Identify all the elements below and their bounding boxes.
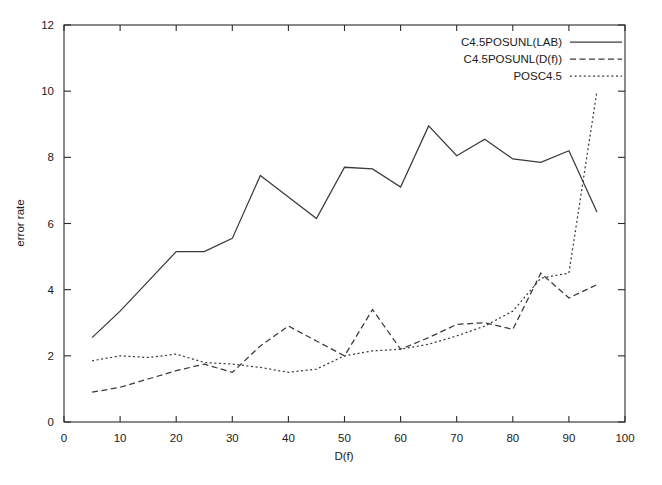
x-tick-label-20: 20	[170, 432, 183, 444]
x-tick-label-60: 60	[394, 432, 407, 444]
data-series-group	[92, 91, 597, 392]
y-tick-label-10: 10	[41, 85, 54, 97]
x-axis-tick-labels: 0102030405060708090100	[61, 432, 635, 444]
legend-label-1: C4.5POSUNL(D(f))	[464, 53, 563, 65]
legend-label-0: C4.5POSUNL(LAB)	[461, 36, 562, 48]
y-tick-label-4: 4	[48, 284, 55, 296]
series-line-2	[92, 91, 597, 372]
series-line-0	[92, 126, 597, 338]
y-axis-tick-labels: 024681012	[41, 19, 54, 428]
x-tick-label-100: 100	[615, 432, 634, 444]
x-tick-label-90: 90	[563, 432, 576, 444]
plot-frame	[64, 25, 625, 422]
chart-legend: C4.5POSUNL(LAB)C4.5POSUNL(D(f))POSC4.5	[461, 36, 622, 82]
x-tick-label-80: 80	[506, 432, 519, 444]
y-axis-title: error rate	[14, 199, 26, 246]
x-tick-label-0: 0	[61, 432, 67, 444]
y-tick-label-0: 0	[48, 416, 54, 428]
x-tick-label-40: 40	[282, 432, 295, 444]
x-tick-label-30: 30	[226, 432, 239, 444]
chart-canvas: 0102030405060708090100 024681012 C4.5POS…	[0, 0, 662, 485]
y-tick-label-6: 6	[48, 218, 54, 230]
y-tick-label-8: 8	[48, 151, 54, 163]
x-tick-label-50: 50	[338, 432, 351, 444]
y-tick-label-2: 2	[48, 350, 54, 362]
legend-label-2: POSC4.5	[513, 70, 562, 82]
y-axis-ticks	[64, 25, 625, 422]
x-tick-label-70: 70	[450, 432, 463, 444]
error-rate-line-chart: 0102030405060708090100 024681012 C4.5POS…	[0, 0, 662, 485]
y-tick-label-12: 12	[41, 19, 54, 31]
x-tick-label-10: 10	[114, 432, 127, 444]
x-axis-ticks	[64, 25, 625, 422]
series-line-1	[92, 273, 597, 392]
x-axis-title: D(f)	[334, 450, 353, 462]
